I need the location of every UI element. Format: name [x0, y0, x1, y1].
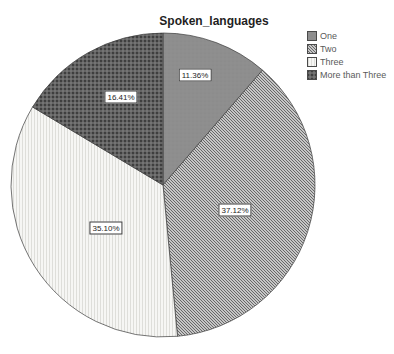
legend-item-more-than-three: More than Three: [307, 68, 386, 81]
legend-label-more-than-three: More than Three: [320, 70, 386, 80]
slice-label-more-than-three: 16.41%: [104, 91, 137, 104]
slice-label-three: 35.10%: [89, 222, 122, 235]
legend-item-one: One: [307, 29, 386, 42]
legend-swatch-more-than-three: [307, 70, 317, 80]
legend-label-two: Two: [320, 44, 337, 54]
legend-swatch-three: [307, 57, 317, 67]
chart-canvas: Spoken_languages 11.36% 37.: [0, 0, 394, 354]
pie-slices-group: [11, 33, 315, 337]
legend-label-three: Three: [320, 57, 344, 67]
legend: One Two Three More than Three: [307, 29, 386, 81]
legend-swatch-two: [307, 44, 317, 54]
legend-item-three: Three: [307, 55, 386, 68]
slice-label-two: 37.12%: [218, 204, 251, 217]
legend-label-one: One: [320, 31, 337, 41]
slice-label-one: 11.36%: [179, 69, 212, 82]
legend-item-two: Two: [307, 42, 386, 55]
legend-swatch-one: [307, 31, 317, 41]
